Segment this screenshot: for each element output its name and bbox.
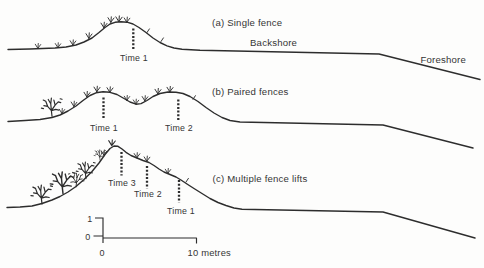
grass-icon xyxy=(86,33,92,38)
panel-a-time1-label: Time 1 xyxy=(120,53,148,63)
grass-icon xyxy=(167,86,173,91)
grass-icon xyxy=(109,140,116,146)
panel-b: (b) Paired fences Time 1 Time 2 xyxy=(8,86,473,148)
grass-blade-icon xyxy=(147,29,149,33)
panel-b-time2-label: Time 2 xyxy=(165,123,193,133)
panel-a: (a) Single fence Backshore Foreshore Tim… xyxy=(8,16,480,80)
grass-icon xyxy=(70,40,76,45)
grass-icon xyxy=(107,87,113,92)
panel-c-time1-label: Time 1 xyxy=(167,206,195,216)
grass-icon xyxy=(94,86,100,91)
grass-icon xyxy=(108,17,114,22)
scale-horizontal-min-label: 0 xyxy=(99,248,104,258)
panel-a-profile-line xyxy=(8,22,480,80)
shrub-icon xyxy=(68,173,84,187)
shrub-icon xyxy=(41,98,62,116)
grass-icon xyxy=(116,16,122,22)
scale-vertical-max-label: 1 xyxy=(87,214,92,224)
scale-bar-vertical-axis xyxy=(94,218,104,244)
panel-a-label: (a) Single fence xyxy=(212,17,282,28)
panel-c-label: (c) Multiple fence lifts xyxy=(213,173,308,184)
grass-icon xyxy=(35,43,40,48)
panel-c-time2-label: Time 2 xyxy=(134,189,162,199)
scale-vertical-min-label: 0 xyxy=(85,232,90,242)
panel-b-profile-line xyxy=(8,92,473,148)
scale-bar-horizontal-axis xyxy=(103,238,197,244)
grass-blade-icon xyxy=(161,38,163,42)
diagram-canvas: (a) Single fence Backshore Foreshore Tim… xyxy=(0,0,484,268)
backshore-label: Backshore xyxy=(250,37,297,48)
panel-c-time3-label: Time 3 xyxy=(108,178,136,188)
panel-b-time1-label: Time 1 xyxy=(90,123,118,133)
scale-bar: 1 0 0 10 metres xyxy=(85,214,231,258)
foreshore-label: Foreshore xyxy=(421,54,467,65)
dune-fence-profiles-diagram: (a) Single fence Backshore Foreshore Tim… xyxy=(0,0,484,268)
scale-horizontal-max-label: 10 metres xyxy=(188,247,232,258)
panel-c-profile-line xyxy=(7,146,475,238)
panel-c: (c) Multiple fence lifts Time 3 Time 2 T… xyxy=(7,140,475,238)
panel-b-label: (b) Paired fences xyxy=(212,86,288,97)
grass-blade-icon xyxy=(186,178,188,182)
